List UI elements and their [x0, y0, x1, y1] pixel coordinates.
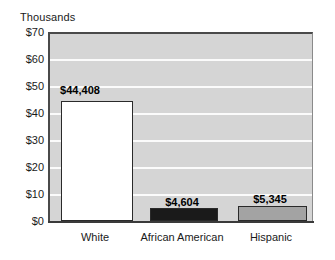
bar-white[interactable]	[61, 101, 133, 221]
bar-value-label-white: $44,408	[40, 84, 120, 96]
y-tick-label: $0	[0, 216, 44, 227]
y-tick-label: $70	[0, 27, 44, 38]
x-tick-label-african-american: African American	[132, 231, 232, 244]
bar-value-label-african-american: $4,604	[142, 196, 222, 208]
y-tick-label: $40	[0, 108, 44, 119]
y-tick-label: $50	[0, 81, 44, 92]
y-tick-label: $10	[0, 189, 44, 200]
bar-hispanic[interactable]	[238, 206, 307, 221]
bar-african-american[interactable]	[150, 208, 218, 221]
gridline	[50, 59, 312, 61]
x-axis-line	[48, 221, 314, 223]
x-axis: White African American Hispanic	[48, 231, 313, 251]
y-axis: $70 $60 $50 $40 $30 $20 $10 $0	[0, 0, 44, 260]
bar-value-label-hispanic: $5,345	[230, 193, 310, 205]
bar-chart: Thousands $44,408 $4,604 $5,345 $70 $60 …	[0, 0, 335, 260]
x-tick-label-hispanic: Hispanic	[231, 231, 311, 244]
x-tick-label-white: White	[55, 231, 135, 244]
y-tick-label: $60	[0, 54, 44, 65]
y-tick-label: $20	[0, 162, 44, 173]
y-tick-label: $30	[0, 135, 44, 146]
